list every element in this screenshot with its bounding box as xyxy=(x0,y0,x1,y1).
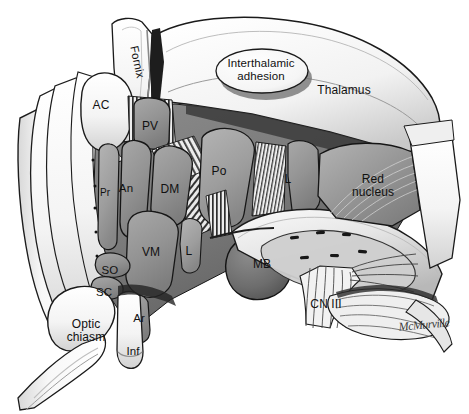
label-anterior-commissure: AC xyxy=(93,99,110,112)
label-pv: PV xyxy=(142,120,158,133)
label-l-lower: L xyxy=(186,245,193,258)
label-interthalamic-adhesion: Interthalamic adhesion xyxy=(227,57,294,83)
label-sc: SC xyxy=(96,286,112,299)
label-inf: Inf xyxy=(126,345,139,358)
label-po: Po xyxy=(212,165,227,178)
label-pr: Pr xyxy=(100,187,110,198)
label-red-nucleus: Red nucleus xyxy=(352,173,394,200)
label-dm: DM xyxy=(161,183,180,196)
anatomical-figure: Fornix AC Interthalamic adhesion Thalamu… xyxy=(0,0,469,414)
label-so: SO xyxy=(102,264,119,277)
label-l-upper: L xyxy=(285,173,292,186)
label-cn3: CN III xyxy=(310,298,341,311)
descending-fiber-bundle xyxy=(252,142,286,216)
label-an: An xyxy=(119,182,133,195)
label-optic-chiasm: Optic chiasm xyxy=(67,318,106,345)
label-ar: Ar xyxy=(133,312,145,325)
label-mb: MB xyxy=(253,258,271,271)
l-upper-nucleus xyxy=(288,141,320,214)
label-thalamus: Thalamus xyxy=(317,84,371,97)
label-vm: VM xyxy=(142,246,160,259)
